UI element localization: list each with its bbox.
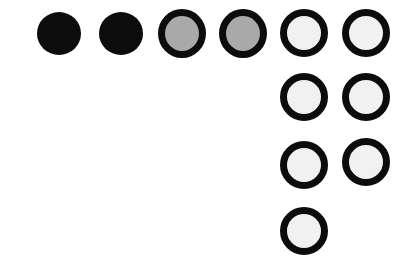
grey-circle-icon	[158, 9, 206, 58]
light-circle-icon	[342, 73, 390, 121]
light-circle-icon	[342, 9, 390, 57]
dot-diagram	[0, 0, 406, 268]
light-circle-icon	[342, 138, 390, 186]
light-circle-icon	[280, 9, 328, 57]
light-circle-icon	[280, 73, 328, 121]
solid-circle-icon	[99, 12, 143, 55]
solid-circle-icon	[37, 12, 81, 55]
light-circle-icon	[280, 207, 328, 255]
light-circle-icon	[280, 141, 328, 189]
grey-circle-icon	[219, 9, 267, 58]
